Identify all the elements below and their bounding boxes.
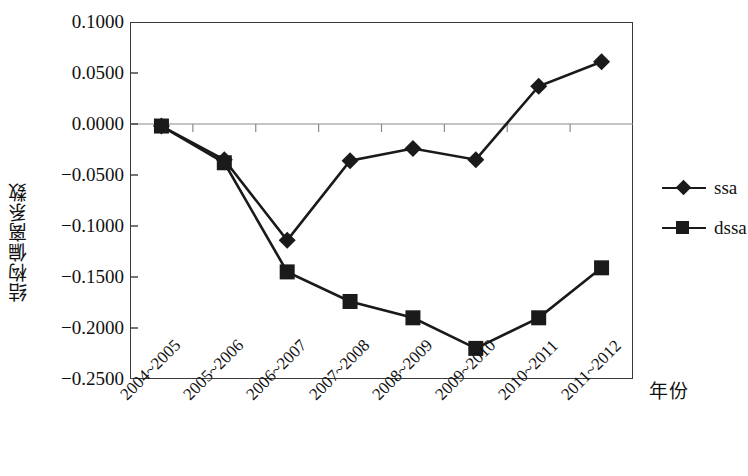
y-axis-title-text: 结构偏离系数 — [4, 182, 31, 302]
data-point-square — [217, 155, 232, 170]
data-point-diamond — [593, 53, 610, 70]
y-axis-tick-label: 0.0500 — [34, 63, 124, 82]
legend-label: ssa — [714, 177, 737, 199]
legend-marker — [676, 221, 689, 234]
data-point-square — [280, 264, 295, 279]
chart-legend: ssadssa — [662, 168, 748, 248]
legend-marker-square-icon — [662, 218, 706, 238]
legend-entry-ssa[interactable]: ssa — [662, 168, 748, 208]
data-point-square — [594, 260, 609, 275]
data-point-square — [531, 310, 546, 325]
y-axis-tick-label: −0.0500 — [34, 165, 124, 184]
data-point-diamond — [404, 140, 421, 157]
line-chart: 结构偏离系数 0.10000.05000.0000−0.0500−0.1000−… — [0, 0, 748, 476]
y-axis-tick-label: 0.1000 — [34, 12, 124, 31]
y-axis-tick-labels: 0.10000.05000.0000−0.0500−0.1000−0.1500−… — [28, 0, 124, 476]
y-axis-tick-label: −0.2500 — [34, 369, 124, 388]
data-point-square — [154, 119, 169, 134]
data-point-square — [405, 310, 420, 325]
y-axis-ticks — [130, 73, 138, 328]
series-ssa — [153, 53, 610, 248]
y-axis-tick-label: −0.1500 — [34, 267, 124, 286]
legend-marker — [676, 180, 692, 196]
legend-entry-dssa[interactable]: dssa — [662, 208, 748, 248]
data-point-square — [343, 294, 358, 309]
legend-label: dssa — [714, 217, 747, 239]
x-axis-ticks — [193, 124, 570, 132]
y-axis-tick-label: −0.2000 — [34, 318, 124, 337]
legend-marker-diamond-icon — [662, 178, 706, 198]
x-axis-title: 年份 — [649, 376, 689, 403]
y-axis-tick-label: −0.1000 — [34, 216, 124, 235]
plot-svg — [130, 22, 633, 379]
y-axis-tick-label: 0.0000 — [34, 114, 124, 133]
data-series-group — [153, 53, 610, 356]
